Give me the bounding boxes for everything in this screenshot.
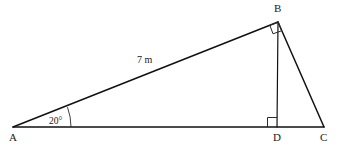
geometry-figure: A B C D 7 m 20°	[0, 0, 345, 150]
vertex-label-B: B	[274, 2, 281, 14]
right-angle-marker-D	[268, 118, 278, 128]
vertex-label-A: A	[9, 131, 17, 143]
triangle-diagram-svg: A B C D 7 m 20°	[0, 0, 345, 150]
vertex-label-D: D	[273, 131, 281, 143]
segment-BD-altitude	[277, 22, 278, 127]
segment-BC-side	[278, 22, 324, 127]
vertex-label-C: C	[320, 131, 327, 143]
angle-arc-A	[68, 107, 72, 127]
side-length-label-AB: 7 m	[137, 54, 153, 65]
angle-label-A: 20°	[49, 116, 63, 126]
segment-AB-hypotenuse	[13, 22, 278, 127]
